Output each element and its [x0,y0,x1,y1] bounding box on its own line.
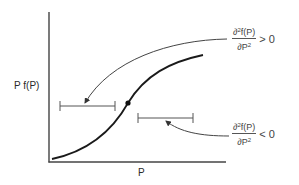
upper-annotation-denominator: ∂P2 [237,39,251,52]
upper-annotation-numerator: ∂2f(P) [232,25,256,39]
y-axis-label: P f(P) [14,80,39,91]
upper-arrow [85,39,227,103]
lower-annotation-relation: < 0 [259,128,275,140]
right-range-bracket [138,113,193,123]
upper-annotation-relation: > 0 [259,33,275,45]
x-axis-label: P [138,167,145,178]
inflection-point [125,100,130,105]
lower-annotation-numerator: ∂2f(P) [232,120,256,134]
axes [49,12,227,163]
lower-annotation-denominator: ∂P2 [237,134,251,147]
lower-arrow [166,121,229,136]
lower-annotation: ∂2f(P) ∂P2 < 0 [232,120,275,147]
upper-annotation: ∂2f(P) ∂P2 > 0 [232,25,275,52]
sigmoid-curve [52,55,203,159]
left-range-bracket [60,101,115,111]
